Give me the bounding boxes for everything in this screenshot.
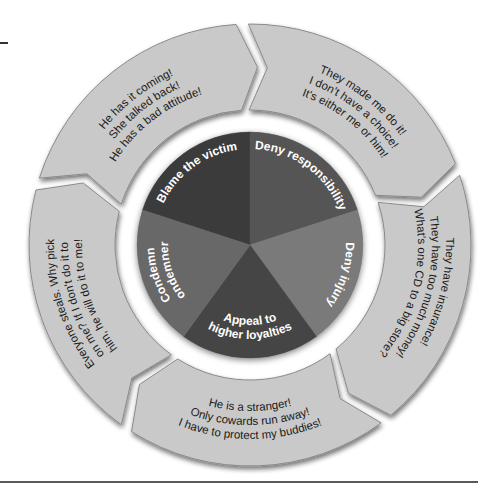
neutralization-wheel-diagram: He has it coming!She talked back!He has … — [0, 0, 499, 485]
